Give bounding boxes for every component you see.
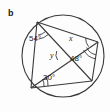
geometry-diagram-svg bbox=[0, 0, 110, 112]
angle-arc-y bbox=[56, 51, 58, 60]
part-label-b: b bbox=[8, 9, 14, 18]
geometry-figure: b 54° x 48° y 30° bbox=[0, 0, 110, 112]
angle-label-54: 54° bbox=[29, 35, 41, 43]
angle-label-x: x bbox=[69, 35, 73, 43]
angle-label-30: 30° bbox=[43, 74, 55, 82]
chord-left-da bbox=[31, 22, 37, 88]
angle-label-48: 48° bbox=[70, 55, 82, 63]
chord-right-bc bbox=[92, 42, 98, 81]
angle-label-y: y bbox=[50, 52, 54, 60]
